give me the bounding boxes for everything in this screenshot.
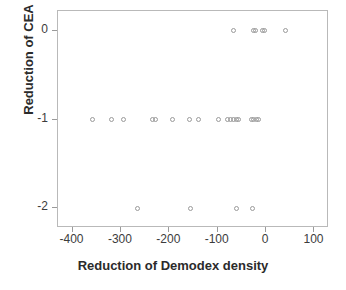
data-point bbox=[153, 117, 158, 122]
data-point bbox=[188, 206, 193, 211]
y-axis-tick-label: -2 bbox=[0, 199, 48, 213]
plot-area bbox=[58, 11, 327, 226]
data-point bbox=[262, 28, 267, 33]
data-point bbox=[135, 206, 140, 211]
data-point bbox=[121, 117, 126, 122]
data-point bbox=[90, 117, 95, 122]
data-point bbox=[187, 117, 192, 122]
data-point bbox=[231, 28, 236, 33]
y-axis-title: Reduction of CEA bbox=[21, 0, 36, 150]
data-point bbox=[253, 28, 258, 33]
data-point bbox=[216, 117, 221, 122]
data-point bbox=[196, 117, 201, 122]
data-point bbox=[170, 117, 175, 122]
y-axis-tick bbox=[52, 207, 57, 208]
data-point bbox=[109, 117, 114, 122]
data-point bbox=[236, 117, 241, 122]
data-point bbox=[283, 28, 288, 33]
x-axis-title: Reduction of Demodex density bbox=[0, 258, 346, 273]
data-point bbox=[256, 117, 261, 122]
scatter-chart: -400-300-200-1000100 0-1-2 Reduction of … bbox=[0, 0, 346, 290]
x-axis-tick-label: 100 bbox=[283, 232, 343, 246]
y-axis-tick bbox=[52, 119, 57, 120]
data-point bbox=[250, 206, 255, 211]
plot-frame bbox=[57, 10, 328, 227]
data-point bbox=[234, 206, 239, 211]
y-axis-tick bbox=[52, 30, 57, 31]
